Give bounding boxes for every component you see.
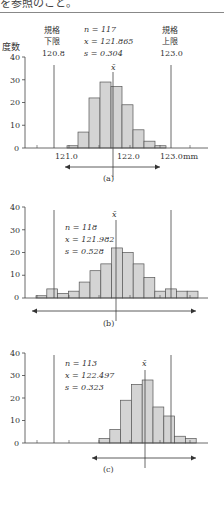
histogram-bar	[47, 289, 58, 298]
histogram-bar	[99, 439, 110, 444]
histogram-bar	[133, 264, 144, 298]
svg-text:10: 10	[10, 270, 20, 279]
svg-text:0: 0	[14, 293, 19, 302]
histogram-bar	[58, 293, 69, 298]
histogram-bar	[175, 436, 186, 443]
svg-text:40: 40	[10, 349, 20, 358]
histogram-bar	[110, 430, 121, 444]
histogram-bar	[164, 416, 175, 443]
caption-c: (c)	[103, 465, 114, 474]
caption-b: (b)	[103, 319, 114, 328]
histogram-bar	[131, 385, 142, 444]
stat-s: s = 0.323	[65, 383, 104, 392]
histogram-bar	[144, 278, 155, 298]
histogram-bar	[122, 253, 133, 299]
stat-n: n = 113	[65, 359, 97, 368]
svg-text:10: 10	[10, 416, 20, 425]
histogram-bar	[68, 291, 79, 298]
svg-text:30: 30	[10, 226, 20, 235]
stat-s: s = 0.528	[65, 247, 104, 256]
svg-text:30: 30	[10, 371, 20, 380]
histogram-bar	[112, 248, 123, 298]
histogram-bar	[142, 380, 153, 443]
stat-xbar: x = 122.497	[65, 371, 115, 380]
mean-label: x̄	[112, 210, 117, 219]
svg-text:40: 40	[10, 203, 20, 212]
histogram-bar	[90, 271, 101, 298]
histogram-bar	[121, 400, 132, 443]
histogram-bar	[101, 264, 112, 298]
stat-n: n = 118	[65, 223, 97, 232]
mean-label: x̄	[142, 359, 147, 368]
histogram-b: n = 118 x = 121.982 s = 0.528 x̄ 40 30 2…	[0, 0, 224, 516]
svg-text:0: 0	[14, 439, 19, 448]
stat-xbar: x = 121.982	[65, 235, 114, 244]
histogram-bar	[187, 291, 198, 298]
histogram-bar	[176, 291, 187, 298]
svg-text:20: 20	[10, 248, 20, 257]
histogram-bar	[153, 407, 164, 443]
svg-text:20: 20	[10, 394, 20, 403]
histogram-bar	[79, 282, 90, 298]
histogram-bar	[185, 439, 196, 444]
